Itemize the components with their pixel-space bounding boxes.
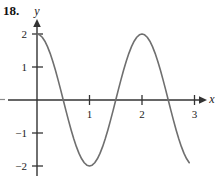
x-axis-arrowhead: [199, 96, 207, 104]
y-axis: [33, 19, 41, 176]
x-axis-label: x: [208, 92, 215, 106]
y-tick-label-1: 1: [22, 61, 28, 73]
x-tick-label-2: 2: [139, 108, 145, 120]
x-tick-label-1: 1: [87, 108, 93, 120]
y-tick-label-2: 2: [22, 28, 28, 40]
x-tick-label-3: 3: [192, 108, 198, 120]
figure-container: 18. 1 2 3 2: [0, 0, 220, 176]
graph-plot: 1 2 3 2 1 −1 −2 x y: [0, 0, 220, 176]
y-tick-label-neg2: −2: [15, 160, 27, 172]
y-axis-arrowhead: [33, 19, 41, 27]
y-tick-label-neg1: −1: [15, 127, 27, 139]
x-axis: [8, 96, 207, 104]
y-axis-label: y: [33, 4, 40, 18]
